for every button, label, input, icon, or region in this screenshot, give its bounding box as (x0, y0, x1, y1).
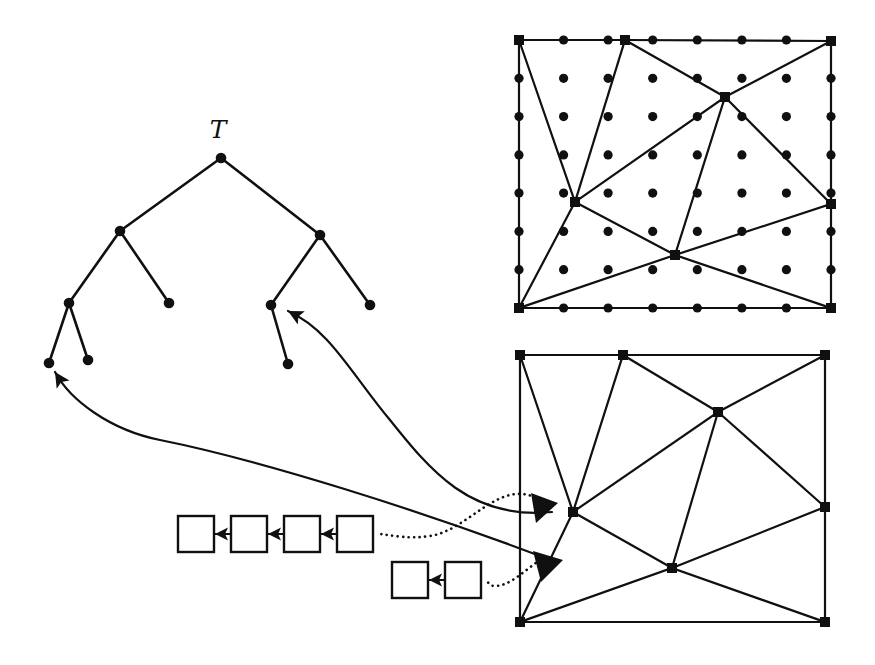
mesh-edge (520, 355, 573, 512)
grid-dot (826, 265, 835, 274)
grid-dot (604, 112, 613, 121)
bottom-mesh-vertex-group (515, 350, 830, 627)
mesh-vertex-corner-top-right[interactable] (820, 350, 830, 360)
grid-dot (693, 189, 702, 198)
diagram-canvas: T (0, 0, 875, 665)
grid-dot (514, 189, 523, 198)
grid-dot (826, 227, 835, 236)
left-right-leaf[interactable] (164, 298, 175, 309)
right-left-node[interactable] (266, 300, 277, 311)
tree-edge (69, 303, 88, 360)
left-left-node[interactable] (64, 298, 75, 309)
grid-dot (604, 227, 613, 236)
grid-dot (693, 150, 702, 159)
mesh-vertex-corner-bottom-right[interactable] (826, 303, 836, 313)
tree-edge (120, 158, 221, 231)
grid-dot (514, 150, 523, 159)
mesh-edge (623, 355, 718, 412)
grid-dot (604, 35, 613, 44)
tree-edge (120, 231, 169, 303)
mesh-vertex-corner-bottom-left[interactable] (514, 303, 524, 313)
mesh-vertex-corner-bottom-right[interactable] (820, 617, 830, 627)
grid-dot (826, 150, 835, 159)
mesh-vertex-interior-vertex-left[interactable] (568, 507, 578, 517)
mesh-vertex-boundary-right-mid[interactable] (826, 199, 836, 209)
grid-dot (559, 227, 568, 236)
grid-dot (693, 35, 702, 44)
figure-root: T (0, 0, 875, 665)
list-box[interactable] (284, 516, 320, 552)
mesh-vertex-corner-top-left[interactable] (514, 35, 524, 45)
mesh-edge (575, 97, 725, 202)
grid-dot (737, 227, 746, 236)
grid-dot (559, 112, 568, 121)
deep-mid-leaf[interactable] (83, 355, 94, 366)
grid-dot (514, 74, 523, 83)
grid-dot (604, 74, 613, 83)
tree-label: T (210, 115, 229, 144)
grid-dot (604, 189, 613, 198)
grid-dot (693, 265, 702, 274)
grid-dot (648, 74, 657, 83)
dotted-curve-upper-list-to-triangle (380, 494, 540, 537)
mesh-vertex-interior-vertex-lower[interactable] (667, 563, 677, 573)
mesh-edge (725, 41, 831, 97)
grid-dot (693, 303, 702, 312)
top-mesh-grid-dot-group (514, 35, 835, 312)
mesh-vertex-interior-vertex-upper[interactable] (720, 92, 730, 102)
right-right-leaf[interactable] (365, 300, 376, 311)
grid-dot (559, 189, 568, 198)
grid-dot (604, 303, 613, 312)
list-box[interactable] (178, 516, 214, 552)
mesh-vertex-boundary-right-mid[interactable] (820, 502, 830, 512)
grid-dot (782, 35, 791, 44)
list-box[interactable] (337, 516, 373, 552)
lower-linked-list (392, 562, 481, 598)
mesh-vertex-corner-bottom-left[interactable] (515, 617, 525, 627)
bottom-mesh-filled-triangle-group (531, 493, 563, 582)
tree-edge-group (49, 158, 370, 364)
grid-dot (648, 189, 657, 198)
mesh-vertex-boundary-top-mid[interactable] (620, 35, 630, 45)
root-node[interactable] (216, 153, 227, 164)
list-box[interactable] (231, 516, 267, 552)
mesh-vertex-interior-vertex-upper[interactable] (713, 407, 723, 417)
deep-right-leaf[interactable] (283, 359, 294, 370)
mesh-vertex-corner-top-left[interactable] (515, 350, 525, 360)
grid-dot (648, 303, 657, 312)
grid-dot (514, 227, 523, 236)
bottom-mesh (515, 350, 830, 627)
grid-dot (737, 74, 746, 83)
list-box[interactable] (445, 562, 481, 598)
mesh-vertex-corner-top-right[interactable] (826, 36, 836, 46)
mesh-vertex-interior-vertex-left[interactable] (570, 197, 580, 207)
tree-node-group (44, 153, 376, 370)
mesh-vertex-interior-vertex-lower[interactable] (670, 250, 680, 260)
grid-dot (693, 112, 702, 121)
grid-dot (648, 35, 657, 44)
upper-linked-list (178, 516, 373, 552)
grid-dot (693, 227, 702, 236)
mesh-edge (672, 568, 825, 622)
grid-dot (737, 189, 746, 198)
right-child-node[interactable] (315, 230, 326, 241)
grid-dot (782, 189, 791, 198)
arrowhead-icon (55, 372, 69, 389)
grid-dot (604, 150, 613, 159)
grid-dot (737, 265, 746, 274)
tree-edge (320, 235, 370, 305)
grid-dot (693, 74, 702, 83)
left-child-node[interactable] (115, 226, 126, 237)
list-box[interactable] (392, 562, 428, 598)
tree-edge (69, 231, 120, 303)
grid-dot (782, 303, 791, 312)
deep-left-leaf[interactable] (44, 358, 55, 369)
mesh-vertex-boundary-top-mid[interactable] (618, 350, 628, 360)
grid-dot (648, 265, 657, 274)
mesh-edge (718, 355, 825, 412)
curve-mesh-to-tree-node-upper (288, 311, 552, 513)
grid-dot (559, 303, 568, 312)
grid-dot (648, 150, 657, 159)
grid-dot (559, 35, 568, 44)
dotted-curve-lower-list-to-triangle (487, 560, 540, 586)
